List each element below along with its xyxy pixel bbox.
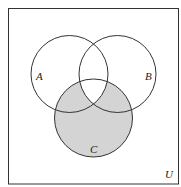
venn-diagram: A B C U xyxy=(0,0,181,187)
set-a-label: A xyxy=(35,70,43,82)
universe-label: U xyxy=(165,168,174,180)
set-b-label: B xyxy=(145,70,152,82)
set-c-label: C xyxy=(90,143,98,155)
